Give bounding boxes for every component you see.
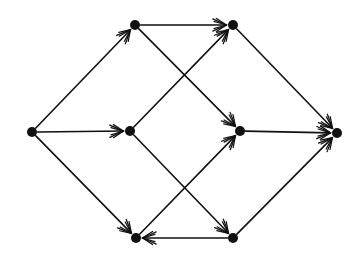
- directed-graph-figure: [0, 0, 364, 262]
- graph-node[interactable]: [131, 233, 141, 243]
- graph-edge-shaft: [140, 136, 236, 234]
- graph-edge: [143, 231, 228, 244]
- graph-edge: [36, 30, 131, 128]
- graph-node[interactable]: [228, 20, 238, 30]
- graph-node[interactable]: [228, 233, 238, 243]
- graph-node[interactable]: [125, 126, 135, 136]
- edge-layer: [36, 18, 333, 244]
- graph-canvas: [0, 0, 364, 262]
- graph-edge-shaft: [245, 131, 330, 133]
- graph-edge: [245, 126, 330, 139]
- graph-edge-shaft: [134, 30, 229, 127]
- graph-edge: [134, 30, 229, 127]
- graph-edge-shaft: [37, 131, 123, 132]
- graph-edge-shaft: [237, 29, 333, 128]
- graph-edge-shaft: [134, 135, 229, 233]
- graph-edge: [36, 136, 132, 233]
- graph-edge: [139, 29, 236, 126]
- graph-edge: [237, 29, 333, 128]
- graph-edge-shaft: [139, 29, 236, 126]
- graph-edge-shaft: [36, 136, 132, 233]
- graph-node[interactable]: [235, 126, 245, 136]
- graph-edge: [37, 125, 123, 138]
- graph-node[interactable]: [27, 127, 37, 137]
- graph-edge-shaft: [237, 138, 333, 234]
- graph-edge-shaft: [36, 30, 131, 128]
- graph-node[interactable]: [332, 128, 342, 138]
- graph-edge: [237, 138, 333, 234]
- graph-edge: [134, 135, 229, 233]
- graph-edge: [140, 136, 236, 234]
- graph-edge: [141, 18, 227, 31]
- graph-node[interactable]: [130, 20, 140, 30]
